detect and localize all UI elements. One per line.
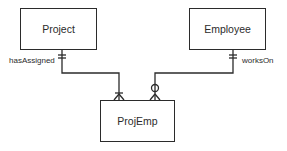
- entity-label: Employee: [204, 23, 251, 35]
- connector-hasassigned: [58, 50, 124, 100]
- entity-label: Project: [42, 23, 75, 35]
- connector-workson: [150, 50, 237, 100]
- entity-project[interactable]: Project: [20, 8, 97, 50]
- entity-employee[interactable]: Employee: [189, 8, 266, 50]
- er-diagram-canvas: Project Employee ProjEmp hasAssigned wor…: [0, 0, 287, 151]
- relationship-label-workson: worksOn: [242, 56, 274, 65]
- relationship-label-hasassigned: hasAssigned: [9, 56, 55, 65]
- entity-label: ProjEmp: [117, 115, 157, 127]
- entity-projemp[interactable]: ProjEmp: [100, 100, 175, 142]
